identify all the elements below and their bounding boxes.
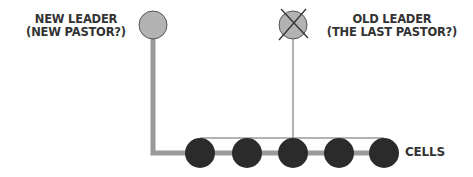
cells-label: CELLS	[405, 146, 445, 159]
cell-node	[324, 138, 354, 168]
old-leader-node	[279, 9, 308, 40]
old-leader-connector	[200, 39, 384, 146]
new-leader-label: NEW LEADER (NEW PASTOR?)	[20, 13, 132, 39]
new-leader-node	[139, 11, 167, 39]
cell-node	[185, 138, 215, 168]
new-leader-subtitle: (NEW PASTOR?)	[20, 26, 132, 39]
cell-node	[232, 138, 262, 168]
cell-node	[278, 138, 308, 168]
old-leader-subtitle: (THE LAST PASTOR?)	[312, 26, 472, 39]
leadership-transition-diagram: NEW LEADER (NEW PASTOR?) OLD LEADER (THE…	[0, 0, 473, 177]
cell-node	[369, 138, 399, 168]
old-leader-label: OLD LEADER (THE LAST PASTOR?)	[312, 13, 472, 39]
new-leader-connector	[153, 38, 384, 153]
